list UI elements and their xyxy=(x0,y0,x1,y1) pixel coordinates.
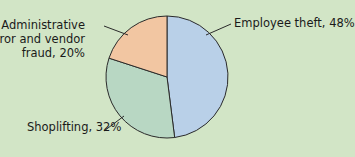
leader-line-admin xyxy=(104,26,128,35)
label-shoplifting: Shoplifting, 32% xyxy=(27,120,121,134)
label-admin-line-3: fraud, 20% xyxy=(0,46,85,60)
label-admin-line-1: Administrative xyxy=(0,18,85,32)
label-employee-theft: Employee theft, 48% xyxy=(234,16,355,30)
leader-line-employee xyxy=(206,24,231,35)
label-administrative: Administrative error and vendor fraud, 2… xyxy=(0,18,85,60)
label-admin-line-2: error and vendor xyxy=(0,32,85,46)
slice-employee-theft xyxy=(167,16,228,138)
